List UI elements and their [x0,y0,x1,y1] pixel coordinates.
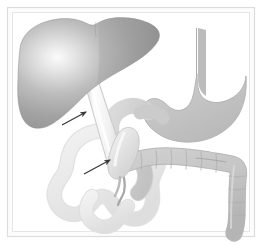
anatomy-illustration-canvas [0,0,263,245]
illustration-figure: Hepatobiliary and gastrointestinal anato… [0,0,263,245]
duodenal-bulb [140,112,163,118]
organ-esophagus [198,28,206,96]
